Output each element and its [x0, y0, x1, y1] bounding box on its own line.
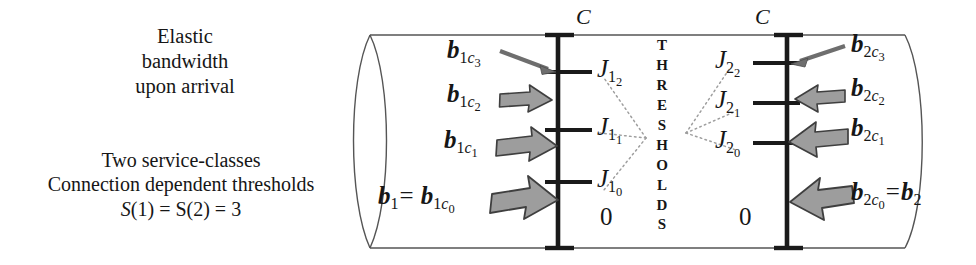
left-axis [545, 33, 592, 250]
label-j10: J10 [597, 165, 622, 193]
caption-line-2: bandwidth [60, 49, 310, 74]
label-j10-sub1: 1 [608, 178, 616, 195]
label-b1c2-b: b [447, 80, 460, 107]
label-j20-j: J [715, 126, 726, 153]
label-b2-sub: 2 [913, 191, 921, 208]
label-j22-sub1: 2 [726, 59, 734, 76]
label-j11-j: J [597, 113, 608, 140]
label-b2c1: b2c1 [851, 114, 885, 142]
label-b1c1-idx: 1 [472, 146, 478, 160]
thresholds-letter: O [647, 156, 677, 176]
right-axis [753, 33, 803, 250]
label-b1c3: b1c3 [447, 36, 481, 64]
caption-two-service-classes: Two service-classes [16, 148, 346, 172]
label-b2c3: b2c3 [851, 30, 885, 58]
label-b2c1-class: 2 [864, 127, 872, 144]
diagram-canvas: Elastic bandwidth upon arrival Two servi… [0, 0, 976, 265]
zero-label-left: 0 [600, 203, 613, 231]
label-b1c1-class: 1 [457, 139, 465, 156]
label-b1-eq-b1c0: b1= b1c0 [378, 182, 455, 210]
label-j10-sub2: 0 [616, 185, 622, 199]
caption-s-symbol: S [121, 198, 131, 220]
label-b2c3-idx: 3 [879, 50, 885, 64]
label-j12-sub1: 1 [608, 68, 616, 85]
label-j22-j: J [715, 46, 726, 73]
label-j21-j: J [715, 86, 726, 113]
arrow-b1c2 [500, 85, 553, 112]
label-b2-b: b [901, 178, 914, 205]
thresholds-letter: D [647, 196, 677, 216]
zero-label-right: 0 [739, 203, 752, 231]
arrow-b1c0 [490, 176, 558, 219]
label-j21: J21 [715, 86, 740, 114]
label-j21-sub2: 1 [734, 106, 740, 120]
thresholds-letter: R [647, 76, 677, 96]
label-b1-sub: 1 [391, 195, 399, 212]
label-b2c3-class: 2 [864, 43, 872, 60]
label-j11: J11 [597, 113, 622, 141]
label-b2c0-idx: 0 [879, 198, 885, 212]
label-b2c2-b: b [851, 74, 864, 101]
thresholds-letter: S [647, 116, 677, 136]
label-b1c3-b: b [447, 36, 460, 63]
label-j12-sub2: 2 [616, 75, 622, 89]
label-b2c0-class: 2 [864, 191, 872, 208]
cylinder-outline [354, 35, 923, 248]
label-j12-j: J [597, 55, 608, 82]
arrow-b1c1 [496, 127, 557, 161]
capacity-label-right: C [755, 4, 770, 30]
capacity-label-left: C [576, 4, 591, 30]
label-b2c0-c: c [872, 191, 879, 208]
thresholds-letter: S [647, 215, 677, 235]
label-b1c0-b: b [421, 182, 434, 209]
label-j20-sub2: 0 [734, 146, 740, 160]
label-b1c2-c: c [468, 93, 475, 110]
caption-service-classes: Two service-classes Connection dependent… [16, 148, 346, 221]
arrow-b2c1 [789, 122, 848, 157]
label-b2c2: b2c2 [851, 74, 885, 102]
arrow-b2c0 [790, 178, 854, 220]
caption-connection-thresholds: Connection dependent thresholds [16, 172, 346, 196]
label-b2-equals: = [885, 178, 901, 205]
arrow-b2c3 [791, 46, 845, 67]
label-j11-sub2: 1 [616, 133, 622, 147]
caption-elastic-bandwidth: Elastic bandwidth upon arrival [60, 24, 310, 99]
thresholds-letter: H [647, 136, 677, 156]
label-b2c2-class: 2 [864, 87, 872, 104]
arrow-b1c3 [500, 51, 556, 75]
label-b1c1-b: b [444, 126, 457, 153]
label-b2c2-idx: 2 [879, 94, 885, 108]
label-j22-sub2: 2 [734, 66, 740, 80]
thresholds-vertical-label: THRESHOLDS [647, 36, 677, 235]
label-b2c0-eq-b2: b2c0=b2 [851, 178, 921, 206]
label-b1c2-class: 1 [460, 93, 468, 110]
label-j20: J20 [715, 126, 740, 154]
thresholds-letter: L [647, 176, 677, 196]
thresholds-letter: E [647, 96, 677, 116]
label-b2c3-c: c [872, 43, 879, 60]
label-b1c1-c: c [465, 139, 472, 156]
label-j11-sub1: 1 [608, 126, 616, 143]
caption-s-values: S(1) = S(2) = 3 [16, 197, 346, 221]
label-j22: J22 [715, 46, 740, 74]
label-b1c2-idx: 2 [475, 100, 481, 114]
label-b1c3-c: c [468, 49, 475, 66]
label-b1-equals: = [399, 182, 415, 209]
label-j20-sub1: 2 [726, 139, 734, 156]
label-j21-sub1: 2 [726, 99, 734, 116]
label-b2c0-b: b [851, 178, 864, 205]
label-b2c2-c: c [872, 87, 879, 104]
thresholds-letter: H [647, 56, 677, 76]
label-b1-b: b [378, 182, 391, 209]
label-b2c3-b: b [851, 30, 864, 57]
label-j12: J12 [597, 55, 622, 83]
label-b2c1-idx: 1 [879, 134, 885, 148]
label-j10-j: J [597, 165, 608, 192]
caption-line-1: Elastic [60, 24, 310, 49]
thresholds-letter: T [647, 36, 677, 56]
label-b1c3-idx: 3 [475, 56, 481, 70]
label-b1c0-idx: 0 [448, 202, 454, 216]
label-b2c1-b: b [851, 114, 864, 141]
arrow-b2c2 [795, 85, 845, 112]
label-b1c3-class: 1 [460, 49, 468, 66]
